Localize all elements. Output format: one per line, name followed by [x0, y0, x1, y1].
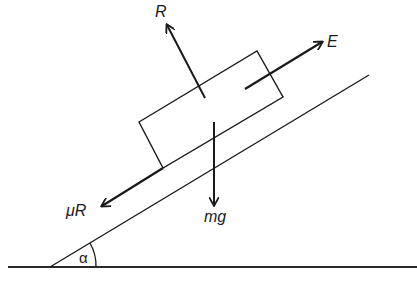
- applied-force-arrow: [245, 42, 322, 89]
- label-applied-force: E: [327, 33, 338, 50]
- normal-force-arrow: [167, 25, 205, 98]
- label-friction: μR: [65, 202, 87, 219]
- angle-arc: [90, 243, 96, 267]
- label-weight: mg: [204, 208, 226, 225]
- incline-surface: [50, 75, 369, 267]
- friction-arrow: [102, 168, 163, 206]
- label-angle: α: [79, 249, 88, 266]
- label-normal-force: R: [155, 3, 167, 20]
- block: [139, 51, 283, 168]
- inclined-plane-diagram: R E mg μR α: [0, 0, 417, 291]
